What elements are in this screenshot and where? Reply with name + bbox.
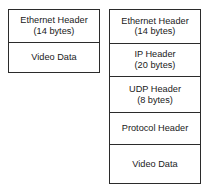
packet-field-size: (14 bytes) <box>135 26 176 37</box>
packet-field-label: Ethernet Header <box>121 16 188 27</box>
ip-udp-encapsulated-packet-stack: Ethernet Header (14 bytes) IP Header (20… <box>109 9 201 184</box>
packet-structure-diagram: Ethernet Header (14 bytes) Video Data Et… <box>0 0 211 194</box>
packet-field-size: (20 bytes) <box>135 60 176 71</box>
packet-field-label: Ethernet Header <box>20 15 87 26</box>
packet-field-label: Video Data <box>31 52 76 63</box>
packet-field-label: UDP Header <box>129 84 181 95</box>
packet-field-ethernet-header: Ethernet Header (14 bytes) <box>110 10 200 44</box>
packet-field-ip-header: IP Header (20 bytes) <box>110 44 200 77</box>
raw-ethernet-packet-stack: Ethernet Header (14 bytes) Video Data <box>8 9 100 73</box>
packet-field-video-data: Video Data <box>9 43 99 72</box>
packet-field-label: IP Header <box>134 49 175 60</box>
packet-field-video-data: Video Data <box>110 145 200 183</box>
packet-field-size: (8 bytes) <box>137 95 173 106</box>
packet-field-label: Protocol Header <box>122 123 188 134</box>
packet-field-size: (14 bytes) <box>34 26 75 37</box>
packet-field-label: Video Data <box>132 159 177 170</box>
packet-field-protocol-header: Protocol Header <box>110 113 200 145</box>
packet-field-udp-header: UDP Header (8 bytes) <box>110 77 200 114</box>
packet-field-ethernet-header: Ethernet Header (14 bytes) <box>9 10 99 43</box>
